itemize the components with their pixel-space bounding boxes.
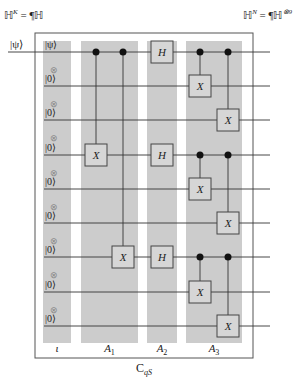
control-dot-icon: [225, 49, 232, 56]
x-gate-5-label: X: [196, 80, 205, 92]
register-label-4: |0⟩: [45, 176, 56, 187]
control-dot-icon: [225, 254, 232, 261]
h-gate-4-label: H: [157, 251, 167, 263]
x-gate-6-label: X: [224, 114, 233, 126]
x-gate-7-label: X: [196, 183, 205, 195]
control-dot-icon: [120, 49, 127, 56]
register-label-2: |0⟩: [45, 107, 56, 118]
control-dot-icon: [225, 152, 232, 159]
column-label-A1: A1: [103, 342, 115, 357]
control-dot-icon: [93, 49, 100, 56]
register-label-7: |0⟩: [45, 279, 56, 290]
register-label-1: |0⟩: [45, 73, 56, 84]
column-label-iota: ι: [55, 342, 58, 354]
h-gate-2-label: H: [157, 46, 167, 58]
register-label-8: |0⟩: [45, 313, 56, 324]
quantum-circuit: ιA1A2A3|ψ⟩|ψ⟩⊗|0⟩⊗|0⟩⊗|0⟩⊗|0⟩⊗|0⟩⊗|0⟩⊗|0…: [0, 0, 298, 384]
x-gate-10-label: X: [224, 320, 233, 332]
register-label-0: |ψ⟩: [45, 39, 57, 50]
register-label-5: |0⟩: [45, 210, 56, 221]
column-label-A3: A3: [208, 342, 220, 357]
control-dot-icon: [197, 49, 204, 56]
x-gate-0-label: X: [92, 149, 101, 161]
x-gate-8-label: X: [224, 217, 233, 229]
column-label-A2: A2: [156, 342, 168, 357]
x-gate-1-label: X: [119, 251, 128, 263]
x-gate-9-label: X: [196, 286, 205, 298]
input-state-label: |ψ⟩: [10, 38, 23, 50]
register-label-6: |0⟩: [45, 244, 56, 255]
control-dot-icon: [197, 152, 204, 159]
register-label-3: |0⟩: [45, 142, 56, 153]
control-dot-icon: [197, 254, 204, 261]
h-gate-3-label: H: [157, 149, 167, 161]
circuit-caption: CqS: [136, 361, 152, 377]
